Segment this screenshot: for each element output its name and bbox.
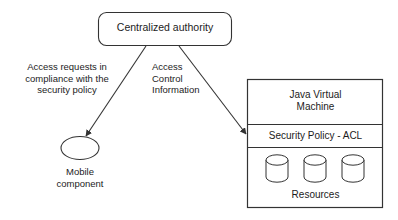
- diagram-canvas: Centralized authority Access requests in…: [0, 0, 398, 220]
- mobile-component-label: Mobile component: [40, 166, 120, 189]
- security-policy-acl-label: Security Policy - ACL: [249, 130, 382, 142]
- edge-label-access-control-information: Access Control Information: [152, 61, 222, 96]
- java-virtual-machine-label: Java Virtual Machine: [249, 89, 382, 112]
- resource-cylinder-icon: [342, 155, 364, 182]
- resources-label: Resources: [249, 189, 382, 201]
- resource-cylinder-icon: [266, 155, 288, 182]
- mobile-component-shape[interactable]: [61, 137, 99, 160]
- resource-cylinder-icon: [304, 155, 326, 182]
- edge-label-access-requests: Access requests in compliance with the s…: [6, 61, 128, 96]
- authority-node-label: Centralized authority: [98, 22, 232, 34]
